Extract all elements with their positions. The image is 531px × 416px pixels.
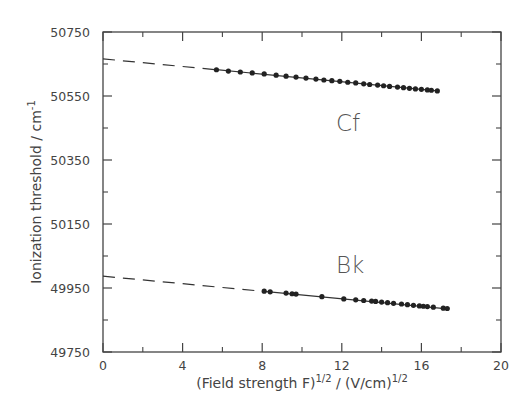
plot-frame xyxy=(103,32,501,352)
data-point xyxy=(345,80,350,85)
data-point xyxy=(319,294,324,299)
data-point xyxy=(283,291,288,296)
data-point xyxy=(313,76,318,81)
data-point xyxy=(238,69,243,74)
data-point xyxy=(361,81,366,86)
axis-ticks xyxy=(103,32,501,352)
data-point xyxy=(407,86,412,91)
data-point xyxy=(431,305,436,310)
data-point xyxy=(411,303,416,308)
data-point xyxy=(303,75,308,80)
y-tick-label: 50550 xyxy=(50,89,90,104)
data-point xyxy=(283,74,288,79)
data-point xyxy=(419,87,424,92)
data-point xyxy=(226,68,231,73)
data-point xyxy=(413,86,418,91)
data-point xyxy=(387,84,392,89)
data-point xyxy=(262,71,267,76)
data-point xyxy=(214,67,219,72)
data-point xyxy=(373,299,378,304)
x-tick-label: 12 xyxy=(334,358,350,373)
data-point xyxy=(353,80,358,85)
data-point xyxy=(381,83,386,88)
x-axis-title: (Field strength F)1/2 / (V/cm)1/2 xyxy=(196,373,408,391)
chart: 048121620 507505055050350501504995049750… xyxy=(0,0,531,416)
data-point xyxy=(435,88,440,93)
data-point xyxy=(321,77,326,82)
data-point xyxy=(293,291,298,296)
series-layer xyxy=(103,59,450,311)
data-point xyxy=(293,75,298,80)
data-point xyxy=(341,296,346,301)
data-point xyxy=(268,289,273,294)
y-tick-label: 49950 xyxy=(50,281,90,296)
series-label-cf: Cf xyxy=(336,110,361,136)
y-tick-label: 50150 xyxy=(50,217,90,232)
series-label-bk: Bk xyxy=(336,252,364,278)
extrapolation-line xyxy=(103,276,264,291)
x-tick-label: 4 xyxy=(179,358,187,373)
series-bk xyxy=(103,276,450,311)
data-point xyxy=(399,301,404,306)
data-point xyxy=(262,289,267,294)
data-point xyxy=(429,88,434,93)
y-tick-labels: 507505055050350501504995049750 xyxy=(50,25,90,360)
data-point xyxy=(337,79,342,84)
data-point xyxy=(361,298,366,303)
data-point xyxy=(445,306,450,311)
data-point xyxy=(375,83,380,88)
data-point xyxy=(425,304,430,309)
x-tick-label: 8 xyxy=(258,358,266,373)
data-point xyxy=(329,78,334,83)
x-tick-label: 20 xyxy=(493,358,509,373)
x-tick-labels: 048121620 xyxy=(99,358,509,373)
data-point xyxy=(274,73,279,78)
x-tick-label: 16 xyxy=(413,358,429,373)
y-tick-label: 50750 xyxy=(50,25,90,40)
extrapolation-line xyxy=(103,59,216,70)
data-point xyxy=(391,301,396,306)
data-point xyxy=(405,302,410,307)
data-point xyxy=(353,297,358,302)
y-axis-title: Ionization threshold / cm-1 xyxy=(26,100,44,284)
y-tick-label: 50350 xyxy=(50,153,90,168)
series-cf xyxy=(103,59,440,94)
data-point xyxy=(395,84,400,89)
data-point xyxy=(379,299,384,304)
data-point xyxy=(401,85,406,90)
data-point xyxy=(367,82,372,87)
data-point xyxy=(385,300,390,305)
y-tick-label: 49750 xyxy=(50,345,90,360)
data-point xyxy=(250,70,255,75)
x-tick-label: 0 xyxy=(99,358,107,373)
